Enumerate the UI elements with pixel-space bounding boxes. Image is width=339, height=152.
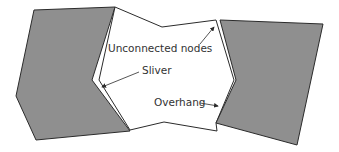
label-unconnected-nodes: Unconnected nodes (108, 42, 212, 54)
label-sliver: Sliver (142, 64, 172, 76)
mesh-defects-diagram: Unconnected nodes Sliver Overhang (0, 0, 339, 152)
label-overhang: Overhang (154, 96, 205, 108)
